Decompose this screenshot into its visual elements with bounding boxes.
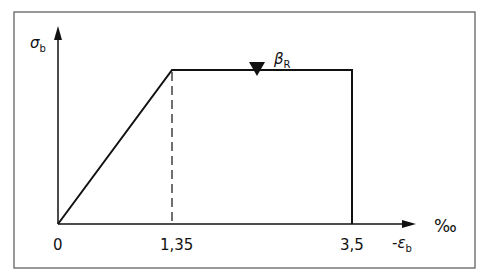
- frame-border: [14, 12, 475, 268]
- chart-canvas: [0, 0, 489, 273]
- x-axis-label: -εb: [392, 234, 412, 252]
- unit-label: ‰: [434, 216, 457, 236]
- tick-label-1-35: 1,35: [160, 236, 193, 254]
- y-axis-arrow-icon: [54, 26, 62, 40]
- tick-label-3-5: 3,5: [340, 236, 364, 254]
- tick-label-0: 0: [53, 236, 63, 254]
- beta-r-label: βR: [274, 50, 291, 68]
- y-axis-label: σb: [30, 34, 46, 52]
- stress-strain-curve: [58, 70, 352, 224]
- x-axis-arrow-icon: [402, 220, 416, 228]
